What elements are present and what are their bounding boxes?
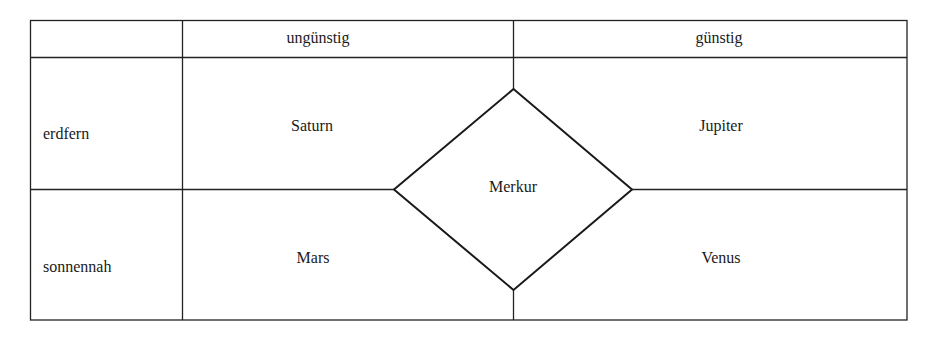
cell-jupiter: Jupiter: [699, 117, 743, 135]
row-label-close-to-sun: sonnennah: [43, 258, 111, 276]
planet-classification-grid: [0, 0, 936, 338]
cell-mars: Mars: [297, 249, 330, 267]
center-label-mercury: Merkur: [489, 178, 537, 196]
cell-saturn: Saturn: [291, 117, 333, 135]
header-unfavorable: ungünstig: [286, 29, 349, 47]
row-label-distant-from-earth: erdfern: [43, 125, 89, 143]
cell-venus: Venus: [701, 249, 740, 267]
header-favorable: günstig: [695, 29, 742, 47]
